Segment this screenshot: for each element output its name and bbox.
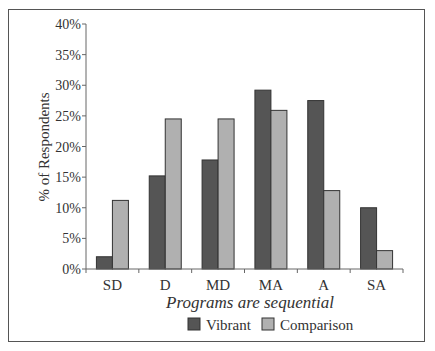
bar-comparison-sd: [112, 200, 128, 269]
bars: [96, 90, 392, 269]
legend: VibrantComparison: [188, 317, 354, 333]
y-tick-label: 15%: [55, 170, 81, 185]
bar-comparison-sa: [377, 251, 393, 269]
x-tick-label: A: [318, 277, 329, 293]
bar-comparison-a: [324, 191, 340, 269]
y-axis: 0%5%10%15%20%25%30%35%40%: [55, 17, 86, 277]
bar-vibrant-md: [202, 160, 218, 269]
y-axis-label: % of Respondents: [36, 92, 52, 201]
bar-chart: 0%5%10%15%20%25%30%35%40% SDDMDMAASA % o…: [0, 0, 435, 351]
x-axis-label: Programs are sequential: [165, 293, 334, 312]
y-tick-label: 25%: [55, 109, 81, 124]
legend-swatch-comparison: [262, 318, 274, 330]
x-axis: SDDMDMAASA: [86, 269, 403, 293]
bar-comparison-d: [165, 119, 181, 269]
y-tick-label: 10%: [55, 201, 81, 216]
bar-vibrant-a: [308, 101, 324, 269]
bar-vibrant-sa: [361, 208, 377, 269]
bar-vibrant-d: [149, 176, 165, 269]
bar-vibrant-sd: [96, 257, 112, 269]
y-tick-label: 5%: [62, 231, 81, 246]
y-tick-label: 0%: [62, 262, 81, 277]
bar-comparison-ma: [271, 110, 287, 269]
bar-comparison-md: [218, 119, 234, 269]
y-tick-label: 30%: [55, 78, 81, 93]
x-tick-label: SD: [103, 277, 122, 293]
legend-label-vibrant: Vibrant: [206, 317, 252, 333]
x-tick-label: MD: [206, 277, 230, 293]
legend-swatch-vibrant: [188, 318, 200, 330]
y-tick-label: 20%: [55, 140, 81, 155]
y-tick-label: 40%: [55, 17, 81, 32]
legend-label-comparison: Comparison: [280, 317, 354, 333]
x-tick-label: SA: [367, 277, 386, 293]
y-tick-label: 35%: [55, 48, 81, 63]
x-tick-label: D: [160, 277, 171, 293]
x-tick-label: MA: [259, 277, 283, 293]
bar-vibrant-ma: [255, 90, 271, 269]
